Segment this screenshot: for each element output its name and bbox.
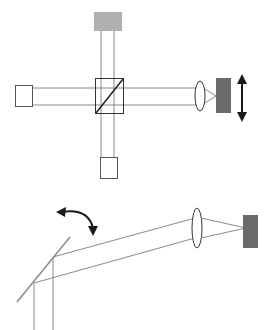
- reflected-beam-upper: [53, 218, 195, 257]
- bottom-square-port: [101, 158, 118, 179]
- converging-beam-bottom: [205, 96, 216, 103]
- arrow-head-up-icon: [237, 74, 247, 84]
- arrow-head-down-icon: [237, 112, 247, 122]
- focus-beam-upper: [201, 218, 246, 228]
- converging-beam-top: [205, 89, 216, 96]
- lens-top: [195, 81, 205, 111]
- optical-diagram: [0, 0, 273, 330]
- detector-block-bottom: [243, 215, 258, 248]
- lens-bottom: [192, 208, 202, 248]
- top-gray-block: [94, 12, 122, 31]
- tilting-mirror: [17, 237, 70, 302]
- rotation-arrow: [62, 211, 93, 228]
- beamsplitter-diagonal: [96, 79, 123, 113]
- rotation-arrow-head-down-icon: [88, 226, 98, 236]
- bottom-tilt-setup: [17, 207, 258, 330]
- detector-block-top: [216, 78, 231, 113]
- focus-beam-lower: [201, 228, 246, 238]
- top-interferometer: [16, 12, 248, 179]
- left-square-port: [16, 86, 33, 107]
- rotation-arrow-head-left-icon: [56, 207, 66, 217]
- reflected-beam-lower: [34, 238, 195, 283]
